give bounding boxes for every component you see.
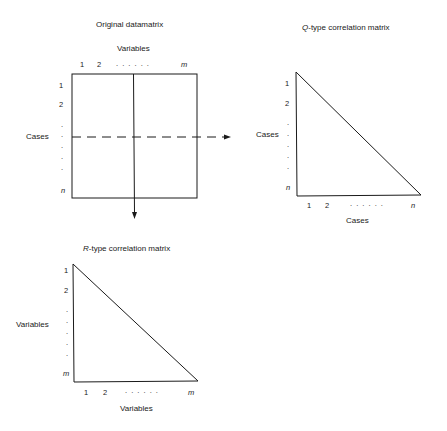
r-col-tick: 1 — [84, 389, 88, 397]
r-row-tick: . — [66, 328, 68, 336]
q-col-tick: 2 — [325, 202, 329, 210]
q-col-tick: . . . . . . — [350, 200, 384, 208]
q-cases-col-label: Cases — [346, 217, 369, 225]
q-col-tick: 1 — [307, 202, 311, 210]
r-triangle — [73, 264, 198, 382]
r-row-tick: . — [66, 317, 68, 325]
r-row-tick: 2 — [64, 287, 68, 295]
diagram-canvas — [0, 0, 447, 431]
r-row-tick: . — [66, 350, 68, 358]
q-title-rest: -type correlation matrix — [308, 23, 389, 32]
q-row-tick: . — [287, 163, 289, 171]
col-tick: m — [181, 61, 187, 69]
q-row-tick: . — [287, 130, 289, 138]
r-col-tick: m — [188, 389, 194, 397]
q-triangle — [296, 72, 421, 196]
q-row-tick: 1 — [285, 80, 289, 88]
row-tick: . — [61, 142, 63, 150]
q-row-tick: 2 — [285, 100, 289, 108]
q-row-tick: . — [287, 119, 289, 127]
row-tick: . — [61, 153, 63, 161]
r-col-tick: . . . . . . — [125, 387, 159, 395]
r-row-tick: m — [63, 370, 69, 378]
r-col-tick: 2 — [103, 389, 107, 397]
row-tick: 2 — [59, 101, 63, 109]
r-variables-row-label: Variables — [16, 321, 49, 329]
datamatrix-cases-label: Cases — [26, 133, 49, 141]
datamatrix-variables-label: Variables — [117, 45, 150, 53]
r-variables-col-label: Variables — [120, 405, 153, 413]
row-tick: . — [61, 164, 63, 172]
q-row-tick: n — [286, 184, 290, 192]
row-tick: 1 — [59, 82, 63, 90]
q-matrix-title: Q-type correlation matrix — [302, 24, 390, 32]
arrow-right-icon — [224, 135, 231, 140]
q-cases-row-label: Cases — [256, 131, 279, 139]
r-row-tick: . — [66, 306, 68, 314]
datamatrix-title: Original datamatrix — [96, 21, 163, 29]
q-row-tick: . — [287, 152, 289, 160]
r-title-rest: -type correlation matrix — [89, 244, 170, 253]
col-tick: . . . . . . — [116, 60, 150, 68]
row-tick: . — [61, 131, 63, 139]
variable-column-line — [134, 74, 135, 214]
q-row-tick: . — [287, 141, 289, 149]
row-tick: . — [61, 121, 63, 129]
arrow-down-icon — [132, 212, 137, 219]
col-tick: 1 — [80, 61, 84, 69]
q-col-tick: n — [411, 202, 415, 210]
r-matrix-title: R-type correlation matrix — [83, 245, 170, 253]
row-tick: n — [61, 187, 65, 195]
col-tick: 2 — [97, 61, 101, 69]
r-row-tick: . — [66, 339, 68, 347]
r-row-tick: 1 — [64, 267, 68, 275]
